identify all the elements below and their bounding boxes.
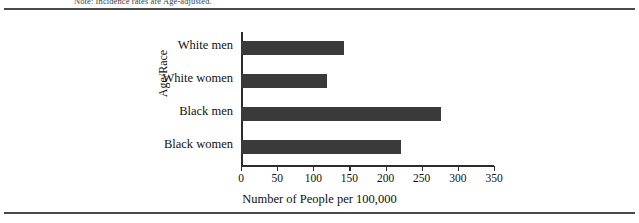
x-tick-mark	[241, 166, 242, 171]
x-tick-label: 350	[485, 172, 502, 184]
x-tick-label: 0	[238, 172, 244, 184]
x-tick-label: 50	[271, 172, 283, 184]
category-label: White men	[178, 38, 233, 53]
category-label: White women	[163, 71, 233, 86]
x-tick-label: 200	[377, 172, 394, 184]
plot-area: White men White women Black men Black wo…	[241, 32, 494, 164]
x-tick-mark	[349, 166, 350, 171]
bar-row: White men	[241, 32, 494, 65]
category-label: Black men	[179, 104, 233, 119]
bar-white-men	[241, 41, 344, 55]
chart-figure: Note: Incidence rates are Age-adjusted. …	[0, 0, 639, 223]
category-label: Black women	[164, 137, 233, 152]
bar-black-men	[241, 107, 441, 121]
figure-note: Note: Incidence rates are Age-adjusted.	[74, 0, 212, 6]
x-tick-mark	[458, 166, 459, 171]
bar-row: Black women	[241, 131, 494, 164]
bar-white-women	[241, 74, 327, 88]
top-divider-rule	[4, 8, 635, 10]
x-axis-ticks: 050100150200250300350	[241, 166, 494, 188]
x-tick-mark	[277, 166, 278, 171]
bar-black-women	[241, 140, 401, 154]
x-tick-label: 100	[305, 172, 322, 184]
bar-row: White women	[241, 65, 494, 98]
x-tick-mark	[313, 166, 314, 171]
x-tick-mark	[386, 166, 387, 171]
x-axis-title: Number of People per 100,000	[0, 192, 639, 207]
bar-row: Black men	[241, 98, 494, 131]
x-tick-label: 300	[449, 172, 466, 184]
x-tick-mark	[422, 166, 423, 171]
x-tick-label: 250	[413, 172, 430, 184]
x-tick-label: 150	[341, 172, 358, 184]
bottom-divider-rule	[4, 212, 635, 214]
x-tick-mark	[494, 166, 495, 171]
